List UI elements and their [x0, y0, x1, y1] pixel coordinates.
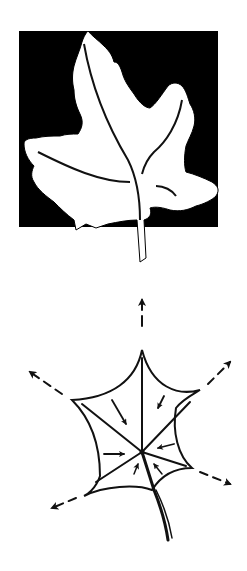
leaf-silhouette-graphic — [0, 0, 247, 280]
diagram-stem-outline — [156, 490, 172, 538]
center-junction — [140, 450, 145, 455]
vein-right-upper — [142, 402, 190, 452]
diagram-leaf-outline — [72, 350, 200, 496]
inward-arrow-lower-right — [154, 464, 162, 474]
outward-arrow-bottom-left — [52, 498, 76, 508]
leaf-force-diagram-figure: Schematic leaf outline with radiating da… — [0, 280, 247, 571]
inward-arrow-upper-left — [112, 400, 126, 424]
outward-arrow-top-left — [30, 372, 62, 394]
leaf-silhouette-figure: White maple-type leaf silhouette with ve… — [0, 0, 247, 280]
outward-arrow-top-right — [208, 362, 230, 384]
outward-arrow-bottom-right — [200, 472, 230, 484]
vein-right-lower — [142, 452, 186, 466]
leaf-force-diagram-graphic — [0, 280, 247, 571]
inward-arrow-lower-left — [134, 464, 138, 474]
vein-left-lower — [96, 452, 142, 482]
inward-arrow-right — [158, 444, 174, 448]
inward-arrow-upper-right — [158, 396, 164, 408]
